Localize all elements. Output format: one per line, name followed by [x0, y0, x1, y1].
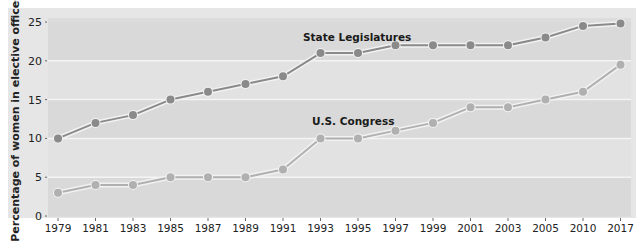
- data-point: [392, 127, 400, 135]
- data-point: [542, 34, 550, 42]
- y-tick-label: 5: [35, 171, 42, 184]
- y-tick-label: 20: [28, 55, 42, 68]
- data-point: [467, 103, 475, 111]
- us-congress-label: U.S. Congress: [312, 115, 394, 127]
- data-point: [354, 134, 362, 142]
- y-axis-label-container: Percentage of women in elective offices: [4, 18, 26, 218]
- x-tick-label: 1999: [420, 222, 447, 234]
- data-point: [579, 22, 587, 30]
- data-point: [467, 41, 475, 49]
- data-point: [167, 173, 175, 181]
- y-tick-label: 10: [28, 132, 42, 145]
- data-point: [504, 103, 512, 111]
- data-point: [542, 96, 550, 104]
- x-tick-label: 2001: [457, 222, 484, 234]
- data-point: [204, 173, 212, 181]
- x-tick-label: 1995: [345, 222, 372, 234]
- x-tick-label: 1997: [382, 222, 409, 234]
- data-point: [617, 20, 625, 28]
- data-point: [92, 181, 100, 189]
- x-axis-ticks: 1979198119831985198719891991199319951997…: [45, 218, 634, 234]
- data-point: [354, 49, 362, 57]
- data-point: [279, 165, 287, 173]
- x-tick-label: 1979: [45, 222, 72, 234]
- data-point: [579, 88, 587, 96]
- x-tick-label: 2003: [495, 222, 522, 234]
- line-chart: 0510152025 19791981198319851987198919911…: [0, 0, 644, 247]
- data-point: [129, 111, 137, 119]
- state-legislatures-label: State Legislatures: [303, 31, 411, 43]
- x-tick-label: 1989: [232, 222, 259, 234]
- x-tick-label: 1993: [307, 222, 334, 234]
- data-point: [92, 119, 100, 127]
- data-point: [617, 61, 625, 69]
- data-point: [54, 189, 62, 197]
- x-tick-label: 2010: [570, 222, 597, 234]
- x-tick-label: 1991: [270, 222, 297, 234]
- data-point: [54, 134, 62, 142]
- y-tick-label: 0: [35, 210, 42, 223]
- data-point: [204, 88, 212, 96]
- data-point: [429, 119, 437, 127]
- data-point: [429, 41, 437, 49]
- x-tick-label: 2005: [532, 222, 559, 234]
- data-point: [317, 134, 325, 142]
- data-point: [129, 181, 137, 189]
- y-axis-label: Percentage of women in elective offices: [9, 0, 22, 242]
- y-tick-label: 25: [28, 16, 42, 29]
- data-point: [242, 80, 250, 88]
- data-point: [242, 173, 250, 181]
- x-tick-label: 1983: [120, 222, 147, 234]
- x-tick-label: 1985: [157, 222, 184, 234]
- x-tick-label: 1987: [195, 222, 222, 234]
- data-point: [317, 49, 325, 57]
- data-point: [504, 41, 512, 49]
- data-point: [167, 96, 175, 104]
- y-tick-label: 15: [28, 94, 42, 107]
- data-point: [279, 72, 287, 80]
- x-tick-label: 1981: [82, 222, 109, 234]
- x-tick-label: 2017: [607, 222, 634, 234]
